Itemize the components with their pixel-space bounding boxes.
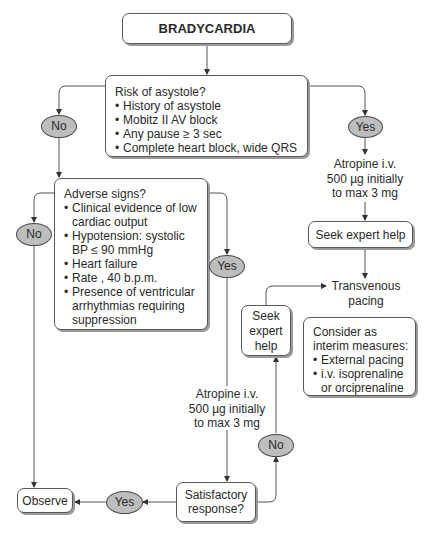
- consider-heading: Consider as: [313, 325, 415, 339]
- adverse-item: Presence of ventricular arrhythmias requ…: [64, 285, 201, 327]
- atropine-line: Atropine i.v.: [315, 157, 415, 172]
- satisfactory-yes-oval: Yes: [106, 491, 143, 514]
- risk-no-label: No: [51, 119, 66, 133]
- bradycardia-box: BRADYCARDIA: [122, 13, 292, 44]
- adverse-question: Adverse signs?: [64, 187, 201, 201]
- sat-no-label: No: [268, 438, 283, 452]
- adverse-yes-label: Yes: [217, 259, 237, 273]
- risk-yes-oval: Yes: [348, 116, 383, 138]
- risk-of-asystole-box: Risk of asystole? History of asystole Mo…: [105, 75, 308, 157]
- risk-question: Risk of asystole?: [115, 85, 307, 99]
- atropine-line: to max 3 mg: [315, 186, 415, 201]
- adverse-item: Heart failure: [64, 257, 201, 271]
- satisfactory-response-box: Satisfactory response?: [176, 482, 256, 522]
- transvenous-line: pacing: [326, 294, 406, 309]
- risk-item: History of asystole: [115, 99, 307, 113]
- satisfactory-line: response?: [177, 502, 255, 516]
- seek-expert-top-label: Seek expert help: [315, 228, 405, 242]
- sat-yes-label: Yes: [115, 495, 135, 509]
- seek-line: Seek: [242, 309, 290, 324]
- adverse-no-label: No: [26, 227, 41, 241]
- satisfactory-line: Satisfactory: [177, 488, 255, 502]
- risk-item: Complete heart block, wide QRS: [115, 141, 307, 155]
- risk-item: Mobitz II AV block: [115, 113, 307, 127]
- atropine-line: 500 µg initially: [177, 402, 277, 417]
- observe-box: Observe: [17, 488, 73, 513]
- consider-heading: interim measures:: [313, 339, 415, 353]
- seek-expert-help-small-box: Seek expert help: [241, 305, 291, 356]
- consider-item: External pacing: [313, 353, 415, 367]
- observe-label: Observe: [22, 494, 67, 508]
- consider-interim-box: Consider as interim measures: External p…: [303, 317, 416, 396]
- adverse-yes-oval: Yes: [209, 255, 245, 278]
- adverse-item: Clinical evidence of low cardiac output: [64, 201, 201, 229]
- atropine-line: Atropine i.v.: [177, 387, 277, 402]
- adverse-no-oval: No: [16, 223, 52, 246]
- atropine-line: to max 3 mg: [177, 416, 277, 431]
- seek-expert-help-top-box: Seek expert help: [308, 221, 413, 248]
- atropine-right-text: Atropine i.v. 500 µg initially to max 3 …: [315, 157, 415, 201]
- risk-item: Any pause ≥ 3 sec: [115, 127, 307, 141]
- adverse-item: Hypotension: systolic BP ≤ 90 mmHg: [64, 229, 201, 257]
- transvenous-line: Transvenous: [326, 279, 406, 294]
- risk-no-oval: No: [41, 115, 77, 138]
- adverse-signs-box: Adverse signs? Clinical evidence of low …: [54, 178, 208, 330]
- consider-item: i.v. isoprenaline: [313, 367, 415, 381]
- atropine-mid-text: Atropine i.v. 500 µg initially to max 3 …: [177, 387, 277, 431]
- bradycardia-title: BRADYCARDIA: [159, 22, 256, 36]
- seek-line: expert: [242, 324, 290, 339]
- seek-line: help: [242, 339, 290, 354]
- consider-item-cont: or orciprenaline: [313, 381, 415, 395]
- transvenous-pacing-text: Transvenous pacing: [326, 279, 406, 308]
- atropine-line: 500 µg initially: [315, 172, 415, 187]
- satisfactory-no-oval: No: [258, 434, 294, 457]
- risk-yes-label: Yes: [356, 120, 376, 134]
- adverse-item: Rate , 40 b.p.m.: [64, 271, 201, 285]
